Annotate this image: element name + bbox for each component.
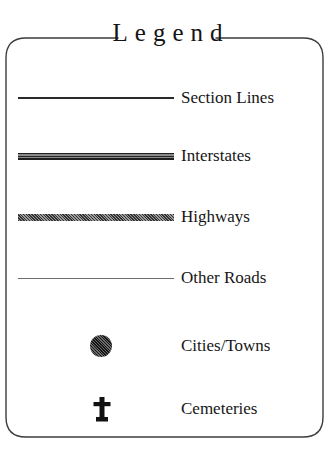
- other-roads-symbol: [18, 278, 174, 279]
- interstates-symbol: [18, 153, 174, 160]
- legend-row-other-roads: Other Roads: [0, 256, 335, 300]
- legend-row-highways: Highways: [0, 195, 335, 239]
- symbol-cell-cities-towns: [18, 324, 174, 368]
- symbol-cell-highways: [18, 195, 174, 239]
- legend-label-cities-towns: Cities/Towns: [181, 324, 331, 368]
- city-dot-icon: [90, 335, 112, 357]
- symbol-cell-section-lines: [18, 76, 174, 120]
- legend-row-interstates: Interstates: [0, 134, 335, 178]
- section-lines-symbol: [18, 97, 174, 99]
- legend-title: Legend: [0, 18, 335, 48]
- legend-label-cemeteries: Cemeteries: [181, 387, 331, 431]
- symbol-cell-cemeteries: [18, 387, 174, 431]
- legend-label-highways: Highways: [181, 195, 331, 239]
- legend-label-other-roads: Other Roads: [181, 256, 331, 300]
- legend-label-interstates: Interstates: [181, 134, 331, 178]
- cemetery-cross-icon: [91, 396, 113, 422]
- legend-row-section-lines: Section Lines: [0, 76, 335, 120]
- legend-row-cemeteries: Cemeteries: [0, 387, 335, 431]
- map-legend-panel: Legend Section Lines Interstates Highway…: [0, 0, 335, 450]
- legend-label-section-lines: Section Lines: [181, 76, 331, 120]
- symbol-cell-other-roads: [18, 256, 174, 300]
- highways-symbol: [18, 214, 174, 221]
- symbol-cell-interstates: [18, 134, 174, 178]
- legend-row-cities-towns: Cities/Towns: [0, 324, 335, 368]
